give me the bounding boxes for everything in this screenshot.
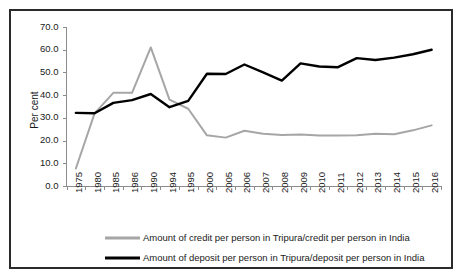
y-axis-group: 0.010.020.030.040.050.060.070.0 <box>40 21 67 191</box>
x-axis-tick-label: 1995 <box>185 172 196 193</box>
y-axis-tick-label: 30.0 <box>40 111 59 122</box>
x-axis-tick-label: 2012 <box>354 172 365 193</box>
x-axis-tick-label: 1986 <box>129 172 140 193</box>
line-chart: 0.010.020.030.040.050.060.070.0 19751980… <box>0 0 464 279</box>
series-line-credit <box>76 47 432 168</box>
chart-container: 0.010.020.030.040.050.060.070.0 19751980… <box>0 0 464 279</box>
x-axis-tick-label: 2016 <box>429 172 440 193</box>
y-axis-tick-label: 10.0 <box>40 157 59 168</box>
x-axis-tick-label: 2009 <box>298 172 309 193</box>
series-line-deposit <box>76 50 432 114</box>
y-axis-ticks: 0.010.020.030.040.050.060.070.0 <box>40 21 67 191</box>
x-axis-tick-label: 2010 <box>316 172 327 193</box>
x-axis-group: 1975198019851986199019941995200020052006… <box>67 172 442 193</box>
chart-legend: Amount of credit per person in Tripura/c… <box>105 232 425 263</box>
y-axis-tick-label: 60.0 <box>40 43 59 54</box>
x-axis-ticks: 1975198019851986199019941995200020052006… <box>67 172 442 193</box>
x-axis-tick-label: 1975 <box>73 172 84 193</box>
x-axis-tick-label: 2008 <box>279 172 290 193</box>
x-axis-tick-label: 2005 <box>223 172 234 193</box>
x-axis-tick-label: 2015 <box>410 172 421 193</box>
y-axis-tick-label: 70.0 <box>40 21 59 32</box>
x-axis-tick-label: 2007 <box>260 172 271 193</box>
x-axis-tick-label: 2014 <box>391 172 402 193</box>
legend-label: Amount of deposit per person in Tripura/… <box>143 252 425 263</box>
x-axis-tick-label: 1994 <box>167 172 178 193</box>
x-axis-tick-label: 2013 <box>372 172 383 193</box>
y-axis-title: Per cent <box>29 91 40 128</box>
y-axis-tick-label: 50.0 <box>40 66 59 77</box>
y-axis-tick-label: 40.0 <box>40 89 59 100</box>
x-axis-tick-label: 1990 <box>148 172 159 193</box>
y-axis-tick-label: 0.0 <box>45 180 58 191</box>
x-axis-tick-label: 1985 <box>110 172 121 193</box>
x-axis-tick-label: 2000 <box>204 172 215 193</box>
y-axis-tick-label: 20.0 <box>40 134 59 145</box>
x-axis-tick-label: 1980 <box>92 172 103 193</box>
x-axis-tick-label: 2011 <box>335 173 346 193</box>
x-axis-tick-label: 2006 <box>241 172 252 193</box>
legend-label: Amount of credit per person in Tripura/c… <box>143 232 410 243</box>
